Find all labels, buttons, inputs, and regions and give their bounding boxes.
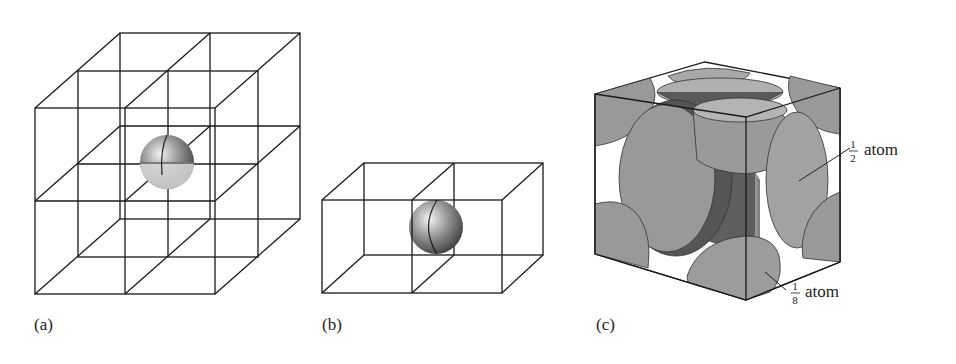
shared-face-atom [409, 200, 463, 254]
svg-text:1: 1 [792, 280, 798, 292]
annotation-half-atom: 1 2 atom [849, 138, 898, 164]
shared-corner-atom [140, 135, 194, 189]
figure-canvas: (a) (b) [0, 0, 956, 364]
panel-a-label: (a) [34, 315, 53, 334]
svg-text:2: 2 [850, 152, 856, 164]
panel-b-lattice: (b) [322, 163, 543, 334]
svg-text:atom: atom [805, 282, 839, 301]
annotation-eighth-atom: 1 8 atom [791, 280, 839, 306]
svg-text:atom: atom [864, 140, 898, 159]
svg-text:8: 8 [792, 294, 798, 306]
front-face [322, 200, 502, 293]
panel-a-lattice: (a) [34, 33, 300, 334]
panel-c-label: (c) [596, 315, 615, 334]
svg-text:1: 1 [850, 138, 856, 150]
panel-b-label: (b) [322, 315, 342, 334]
panel-c-fcc-cell: 1 2 atom 1 8 atom (c) [595, 62, 898, 334]
